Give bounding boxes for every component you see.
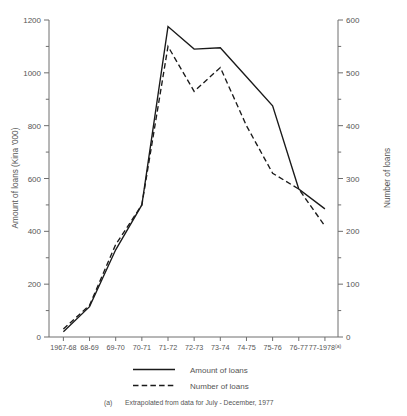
left-axis-tick-label: 600 bbox=[28, 175, 42, 184]
right-axis-tick-label: 100 bbox=[346, 280, 360, 289]
x-axis-tick-label: 70-71 bbox=[133, 343, 151, 352]
right-axis-tick-label: 300 bbox=[346, 175, 360, 184]
series-number-of-loans bbox=[63, 46, 325, 329]
right-axis-tick-labels: 0100200300400500600 bbox=[346, 16, 360, 342]
x-axis-tick-label: 69-70 bbox=[106, 343, 124, 352]
legend-item-number-of-loans: Number of loans bbox=[133, 382, 249, 391]
footnote-marker: (a) bbox=[104, 399, 112, 407]
left-axis-tick-label: 1200 bbox=[23, 16, 41, 25]
right-axis-tick-label: 600 bbox=[346, 16, 360, 25]
right-axis: 0100200300400500600 bbox=[338, 16, 360, 342]
x-axis-tick-label: 74-75 bbox=[237, 343, 255, 352]
right-axis-tick-label: 0 bbox=[346, 333, 351, 342]
line-chart: 020040060080010001200 010020030040050060… bbox=[0, 0, 407, 416]
chart-legend: Amount of loans Number of loans bbox=[133, 366, 249, 391]
left-axis-tick-labels: 020040060080010001200 bbox=[23, 16, 41, 342]
x-axis-tick-label: 77-1978(a) bbox=[309, 343, 342, 352]
right-axis-ticks bbox=[338, 20, 343, 337]
x-axis-ticks bbox=[63, 337, 325, 341]
right-axis-tick-label: 400 bbox=[346, 122, 360, 131]
x-axis-tick-label: 72-73 bbox=[185, 343, 203, 352]
left-axis-title: Amount of loans (Kina '000) bbox=[11, 127, 20, 228]
bottom-axis: 1967-6868-6969-7070-7171-7272-7373-7474-… bbox=[49, 337, 342, 352]
left-axis-ticks bbox=[44, 20, 49, 337]
x-axis-tick-label: 71-72 bbox=[159, 343, 177, 352]
left-axis-tick-label: 800 bbox=[28, 122, 42, 131]
x-axis-tick-labels: 1967-6868-6969-7070-7171-7272-7373-7474-… bbox=[50, 343, 341, 352]
series-amount-of-loans bbox=[63, 27, 325, 332]
legend-label-amount-of-loans: Amount of loans bbox=[190, 366, 248, 375]
data-series-group bbox=[63, 27, 325, 332]
x-axis-tick-label: 76-77 bbox=[290, 343, 308, 352]
x-axis-tick-label: 73-74 bbox=[211, 343, 229, 352]
left-axis-tick-label: 400 bbox=[28, 227, 42, 236]
right-axis-tick-label: 500 bbox=[346, 69, 360, 78]
right-axis-tick-label: 200 bbox=[346, 227, 360, 236]
legend-item-amount-of-loans: Amount of loans bbox=[133, 366, 248, 375]
legend-label-number-of-loans: Number of loans bbox=[190, 382, 249, 391]
x-axis-tick-label: 1967-68 bbox=[50, 343, 76, 352]
footnote-text: Extrapolated from data for July - Decemb… bbox=[125, 399, 274, 407]
left-axis-tick-label: 0 bbox=[37, 333, 42, 342]
left-axis: 020040060080010001200 bbox=[23, 16, 49, 342]
left-axis-tick-label: 1000 bbox=[23, 69, 41, 78]
x-axis-tick-label: 75-76 bbox=[263, 343, 281, 352]
chart-footnote: (a) Extrapolated from data for July - De… bbox=[104, 399, 274, 407]
chart-page: 020040060080010001200 010020030040050060… bbox=[0, 0, 407, 416]
right-axis-title: Number of loans bbox=[383, 148, 392, 208]
left-axis-tick-label: 200 bbox=[28, 280, 42, 289]
x-axis-tick-label: 68-69 bbox=[80, 343, 98, 352]
